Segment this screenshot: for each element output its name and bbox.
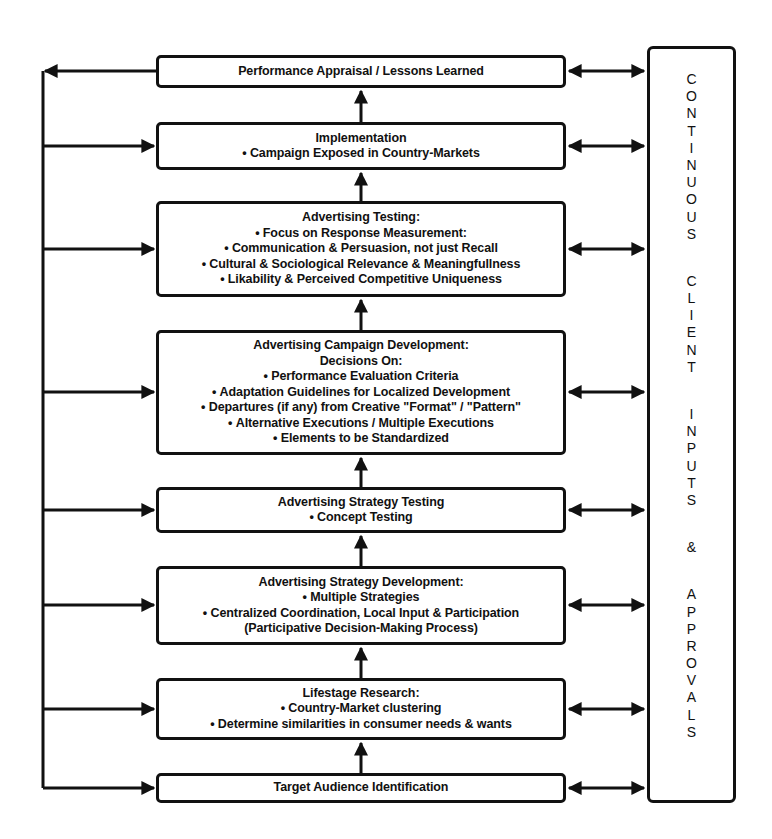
stage-bullet: Departures (if any) from Creative "Forma… <box>201 400 521 416</box>
stage-bullet: Campaign Exposed in Country-Markets <box>242 146 480 162</box>
word-gap <box>650 243 733 273</box>
feedback-loop <box>43 71 156 788</box>
vertical-letter: C <box>650 71 733 88</box>
vertical-letter: S <box>650 724 733 741</box>
stage-title: Performance Appraisal / Lessons Learned <box>238 64 484 80</box>
stage-advertising-testing: Advertising Testing: Focus on Response M… <box>156 201 566 297</box>
stage-bullet: Alternative Executions / Multiple Execut… <box>228 416 494 432</box>
stage-bullet: Adaptation Guidelines for Localized Deve… <box>212 385 510 401</box>
vertical-letter: L <box>650 707 733 724</box>
stage-bullet: Likability & Perceived Competitive Uniqu… <box>220 272 502 288</box>
stage-strategy-development: Advertising Strategy Development: Multip… <box>156 566 566 645</box>
vertical-letter: O <box>650 655 733 672</box>
stage-title: Advertising Strategy Development: <box>258 575 463 591</box>
stage-bullet: Multiple Strategies <box>303 590 420 606</box>
vertical-letter: O <box>650 88 733 105</box>
vertical-letter: A <box>650 689 733 706</box>
vertical-letter: T <box>650 359 733 376</box>
stage-strategy-testing: Advertising Strategy Testing Concept Tes… <box>156 487 566 533</box>
stage-performance-appraisal: Performance Appraisal / Lessons Learned <box>156 55 566 88</box>
stage-campaign-development: Advertising Campaign Development: Decisi… <box>156 330 566 455</box>
vertical-letter: U <box>650 209 733 226</box>
stage-bullet: Communication & Persuasion, not just Rec… <box>224 241 498 257</box>
stage-title: Advertising Testing: <box>302 210 420 226</box>
vertical-letter: U <box>650 458 733 475</box>
vertical-letter: C <box>650 273 733 290</box>
vertical-letter: N <box>650 423 733 440</box>
stage-title: Lifestage Research: <box>303 686 420 702</box>
vertical-letter: I <box>650 140 733 157</box>
vertical-letter: N <box>650 105 733 122</box>
stage-implementation: Implementation Campaign Exposed in Count… <box>156 122 566 170</box>
advertising-process-diagram: Performance Appraisal / Lessons Learned … <box>0 0 772 839</box>
stage-bullet: Concept Testing <box>309 510 412 526</box>
vertical-letter: S <box>650 492 733 509</box>
vertical-letter: P <box>650 604 733 621</box>
stage-bullet: Centralized Coordination, Local Input & … <box>203 606 519 622</box>
stage-bullet: Focus on Response Measurement: <box>255 226 467 242</box>
stage-title: Implementation <box>316 131 407 147</box>
client-inputs-panel: CONTINUOUSCLIENTINPUTS&APPROVALS <box>647 46 736 803</box>
vertical-letter: P <box>650 440 733 457</box>
stage-subtitle: Decisions On: <box>320 354 403 370</box>
stage-bullet: Performance Evaluation Criteria <box>264 369 459 385</box>
stage-bullet: Determine similarities in consumer needs… <box>210 717 512 733</box>
stage-note: (Participative Decision-Making Process) <box>244 621 478 637</box>
client-inputs-vertical-label: CONTINUOUSCLIENTINPUTS&APPROVALS <box>650 71 733 741</box>
vertical-letter: V <box>650 672 733 689</box>
vertical-letter: S <box>650 226 733 243</box>
vertical-letter: N <box>650 157 733 174</box>
stage-lifestage-research: Lifestage Research: Country-Market clust… <box>156 678 566 740</box>
stage-title: Advertising Strategy Testing <box>278 495 444 511</box>
stage-bullet: Elements to be Standardized <box>273 431 449 447</box>
stage-bullet: Country-Market clustering <box>281 701 442 717</box>
vertical-letter: I <box>650 307 733 324</box>
vertical-letter: T <box>650 123 733 140</box>
vertical-letter: L <box>650 290 733 307</box>
vertical-letter: E <box>650 324 733 341</box>
vertical-letter: A <box>650 586 733 603</box>
vertical-letter: T <box>650 475 733 492</box>
stage-title: Target Audience Identification <box>274 780 449 796</box>
stage-bullet: Cultural & Sociological Relevance & Mean… <box>202 257 521 273</box>
client-input-arrows <box>569 71 644 788</box>
vertical-letter: U <box>650 174 733 191</box>
vertical-letter: & <box>650 539 733 556</box>
vertical-letter: P <box>650 621 733 638</box>
word-gap <box>650 509 733 539</box>
vertical-letter: N <box>650 342 733 359</box>
word-gap <box>650 556 733 586</box>
stage-title: Advertising Campaign Development: <box>253 338 469 354</box>
vertical-letter: O <box>650 191 733 208</box>
vertical-letter: I <box>650 406 733 423</box>
stage-target-audience: Target Audience Identification <box>156 773 566 803</box>
word-gap <box>650 376 733 406</box>
vertical-letter: R <box>650 638 733 655</box>
